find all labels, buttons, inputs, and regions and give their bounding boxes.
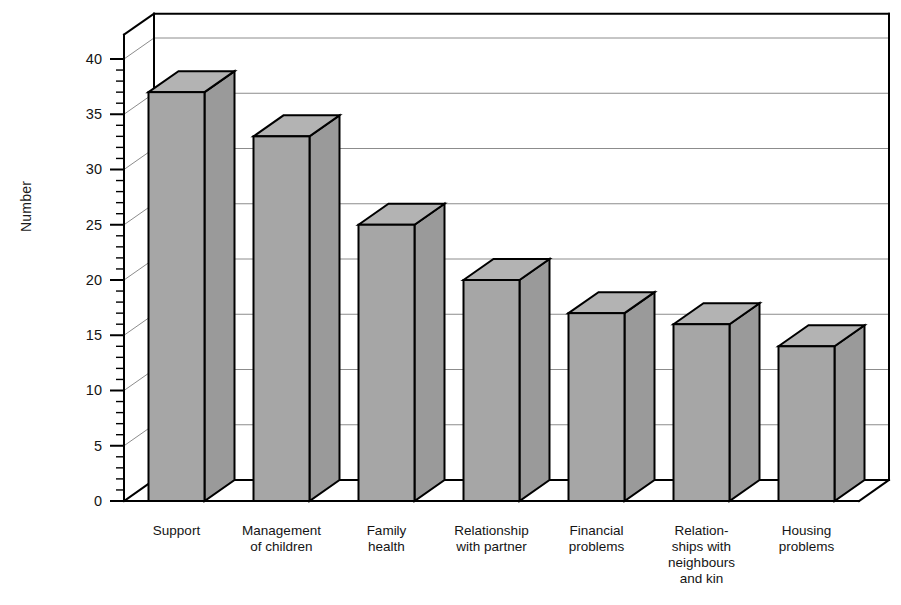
bar-column (464, 259, 550, 501)
svg-text:20: 20 (86, 272, 102, 288)
bar-column (674, 303, 760, 501)
svg-text:0: 0 (94, 493, 102, 509)
bar-chart: Number 0510152025303540 SupportManagemen… (0, 0, 901, 605)
bar-column (569, 292, 655, 501)
bars (149, 71, 865, 501)
svg-text:10: 10 (86, 382, 102, 398)
y-axis-tick-labels: 0510152025303540 (86, 51, 102, 509)
bar-column (359, 204, 445, 501)
x-axis-label: Financial problems (544, 523, 649, 555)
svg-text:35: 35 (86, 106, 102, 122)
bar-column (254, 115, 340, 501)
chart-plot-area: 0510152025303540 (0, 0, 901, 605)
svg-text:15: 15 (86, 327, 102, 343)
x-axis-label: Relation- ships with neighbours and kin (649, 523, 754, 587)
bar-column (149, 71, 235, 501)
svg-text:40: 40 (86, 51, 102, 67)
svg-text:5: 5 (94, 438, 102, 454)
svg-text:25: 25 (86, 217, 102, 233)
y-axis-ticks (110, 59, 124, 501)
x-axis-label: Relationship with partner (439, 523, 544, 555)
x-axis-label: Housing problems (754, 523, 859, 555)
svg-text:30: 30 (86, 161, 102, 177)
bar-column (779, 325, 865, 501)
x-axis-label: Family health (334, 523, 439, 555)
x-axis-label: Support (124, 523, 229, 539)
x-axis-label: Management of children (229, 523, 334, 555)
